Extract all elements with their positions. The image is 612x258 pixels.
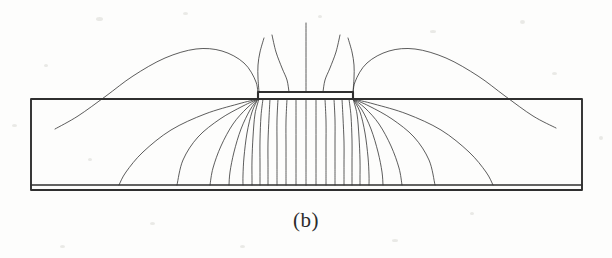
field-line-fringe-arc-right (353, 48, 556, 128)
field-line-sub-line-R10 (325, 99, 326, 185)
field-line-sub-line-R5 (353, 99, 369, 185)
field-line-air-line-right-outer (348, 38, 354, 92)
field-line-sub-line-R7 (349, 99, 352, 185)
figure-container: (b) (0, 0, 612, 258)
field-line-air-line-left-outer (258, 38, 264, 92)
figure-caption: (b) (0, 208, 612, 233)
field-line-sub-line-L6 (252, 99, 259, 185)
field-line-fringe-arc-left (55, 48, 258, 129)
field-line-air-line-right-inner (323, 35, 340, 92)
field-line-sub-line-R4 (353, 99, 383, 185)
field-line-sub-line-R2 (353, 99, 435, 185)
field-line-sub-line-L9 (277, 99, 278, 185)
field-line-sub-line-R9 (334, 99, 335, 185)
top-electrode-outline (258, 92, 353, 99)
field-line-sub-line-L3 (210, 99, 258, 185)
field-line-sub-line-L7 (260, 99, 263, 185)
field-line-sub-line-R1 (353, 99, 493, 185)
field-line-air-line-left-inner (272, 35, 289, 92)
substrate-outline (31, 99, 582, 190)
field-line-sub-line-L8 (268, 99, 270, 185)
field-line-sub-line-L10 (286, 99, 287, 185)
field-line-sub-line-R6 (353, 99, 360, 185)
field-line-sub-line-R8 (342, 99, 344, 185)
